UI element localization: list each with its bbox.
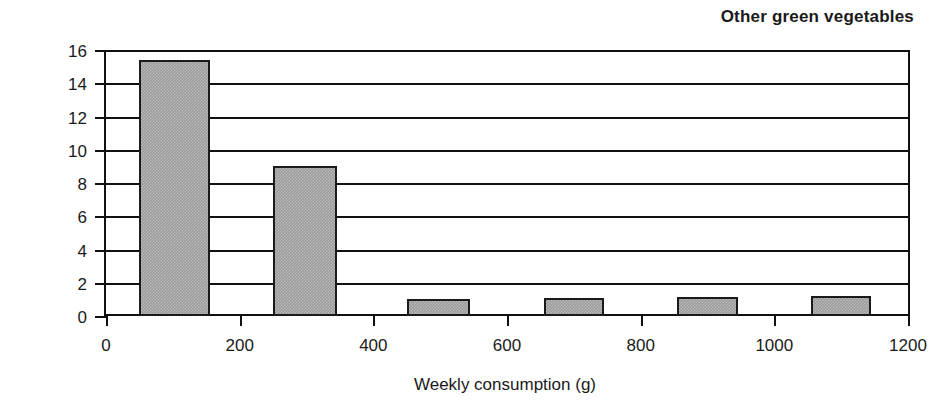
x-tick-label: 800 <box>626 336 654 356</box>
plot-frame-top <box>106 50 908 52</box>
x-tick-mark <box>240 316 242 326</box>
gridline <box>106 83 908 85</box>
y-tick-mark: 12 <box>95 117 106 119</box>
y-tick-label: 6 <box>78 208 87 228</box>
bar <box>273 166 336 316</box>
chart-page: Other green vegetables Number of people … <box>0 0 942 415</box>
x-tick-label: 400 <box>359 336 387 356</box>
gridline <box>106 250 908 252</box>
x-tick-label: 1200 <box>889 336 927 356</box>
y-tick-mark: 8 <box>95 183 106 185</box>
y-tick-mark: 2 <box>95 283 106 285</box>
plot-area: 0246810121416 020040060080010001200 <box>104 50 910 316</box>
y-tick-label: 0 <box>78 308 87 328</box>
gridline <box>106 117 908 119</box>
x-tick-mark <box>106 316 108 326</box>
bar <box>811 296 871 316</box>
x-tick-mark <box>641 316 643 326</box>
y-tick-label: 12 <box>68 109 87 129</box>
x-tick-label: 200 <box>225 336 253 356</box>
x-axis-title: Weekly consumption (g) <box>104 375 906 395</box>
y-tick-mark: 4 <box>95 250 106 252</box>
y-tick-label: 8 <box>78 175 87 195</box>
y-tick-label: 2 <box>78 275 87 295</box>
gridline <box>106 216 908 218</box>
x-tick-mark <box>507 316 509 326</box>
gridline <box>106 283 908 285</box>
bar <box>677 297 737 316</box>
y-tick-mark: 10 <box>95 150 106 152</box>
bar <box>544 298 604 316</box>
y-tick-label: 10 <box>68 142 87 162</box>
y-tick-label: 4 <box>78 242 87 262</box>
y-tick-label: 16 <box>68 42 87 62</box>
x-tick-mark <box>774 316 776 326</box>
x-tick-label: 0 <box>101 336 110 356</box>
gridline <box>106 183 908 185</box>
x-tick-mark <box>373 316 375 326</box>
gridline <box>106 150 908 152</box>
x-tick-label: 600 <box>493 336 521 356</box>
chart-title: Other green vegetables <box>721 7 914 27</box>
bar <box>139 60 209 316</box>
bar <box>407 299 470 316</box>
y-tick-mark: 14 <box>95 83 106 85</box>
y-tick-mark: 16 <box>95 50 106 52</box>
y-tick-mark: 6 <box>95 216 106 218</box>
x-tick-label: 1000 <box>755 336 793 356</box>
y-tick-mark: 0 <box>95 316 106 318</box>
y-tick-label: 14 <box>68 75 87 95</box>
x-tick-mark <box>908 316 910 326</box>
